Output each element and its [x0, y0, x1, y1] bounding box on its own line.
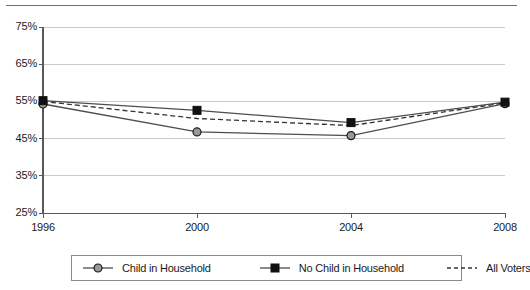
x-tick-label-2008: 2008: [482, 222, 528, 233]
x-tick-label-2004: 2004: [328, 222, 374, 233]
legend-entry-0: Child in Household: [82, 256, 211, 280]
legend-label-1: No Child in Household: [299, 262, 404, 274]
data-point-square-2000: [193, 106, 201, 114]
data-point-square-2008: [501, 98, 509, 106]
chart-legend: Child in HouseholdNo Child in HouseholdA…: [71, 255, 462, 281]
y-tick-label-65%: 65%: [3, 58, 37, 69]
legend-label-2: All Voters: [486, 262, 530, 274]
legend-entry-2: All Voters: [446, 256, 530, 280]
square-marker-icon: [259, 261, 291, 275]
series-line-1: [43, 101, 505, 123]
plot-area: 75%65%55%45%35%25% 1996200020042008: [0, 0, 523, 245]
y-tick-label-45%: 45%: [3, 133, 37, 144]
y-tick-label-75%: 75%: [3, 21, 37, 32]
x-tickmarks-group: [43, 213, 505, 218]
legend-label-0: Child in Household: [122, 262, 211, 274]
legend-entry-1: No Child in Household: [259, 256, 404, 280]
data-point-square-2004: [347, 119, 355, 127]
circle-marker-icon: [82, 261, 114, 275]
x-tick-label-2000: 2000: [174, 222, 220, 233]
data-point-circle-2000: [193, 128, 201, 136]
gridlines-group: [43, 27, 505, 213]
line-chart-svg: [0, 0, 523, 245]
y-tick-label-25%: 25%: [3, 207, 37, 218]
y-tick-label-55%: 55%: [3, 95, 37, 106]
y-tick-label-35%: 35%: [3, 170, 37, 181]
dashed-line-icon: [446, 261, 478, 275]
data-point-circle-2004: [347, 132, 355, 140]
data-point-square-1996: [39, 97, 47, 105]
data-series-group: [39, 97, 509, 140]
series-line-0: [43, 104, 505, 136]
legend-entries: Child in HouseholdNo Child in HouseholdA…: [72, 256, 461, 280]
x-tick-label-1996: 1996: [20, 222, 66, 233]
